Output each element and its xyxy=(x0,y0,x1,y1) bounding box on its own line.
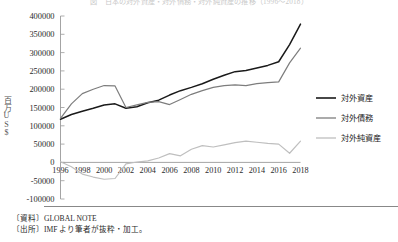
x-tick-label: 2016 xyxy=(270,166,286,175)
y-tick-label: 200000 xyxy=(29,85,54,94)
x-tick-label: 2012 xyxy=(227,166,243,175)
y-tick-label: 100000 xyxy=(29,122,54,131)
x-axis-tick-labels: 1996199820002002200420062008201020122014… xyxy=(52,166,308,175)
footer-source-material: 〔資料〕GLOBAL NOTE xyxy=(12,213,147,224)
data-series-lines xyxy=(61,24,301,179)
y-tick-label: -50000 xyxy=(31,177,55,186)
x-tick-label: 2010 xyxy=(205,166,221,175)
x-tick-label: 2000 xyxy=(96,166,112,175)
y-tick-label: -100000 xyxy=(27,195,55,204)
x-tick-label: 2004 xyxy=(140,166,156,175)
y-tick-label: 150000 xyxy=(29,104,54,113)
legend-label: 対外債務 xyxy=(341,113,374,123)
y-axis-tick-labels: 4000003500003000002500002000001500001000… xyxy=(27,12,55,204)
y-tick-label: 250000 xyxy=(29,67,54,76)
chart-plot: 4000003500003000002500002000001500001000… xyxy=(0,0,398,242)
series-line xyxy=(61,24,301,119)
legend-label: 対外純資産 xyxy=(341,133,381,143)
x-tick-label: 2006 xyxy=(161,166,177,175)
footer-notes: 〔資料〕GLOBAL NOTE 〔出所〕IMF より筆者が抜粋・加工。 xyxy=(12,213,147,235)
footer-source-origin: 〔出所〕IMF より筆者が抜粋・加工。 xyxy=(12,224,147,235)
y-tick-label: 400000 xyxy=(29,12,54,21)
y-tick-label: 50000 xyxy=(34,140,55,149)
legend-label: 対外資産 xyxy=(341,93,373,103)
figure-container: 図 日本の対外資産・対外債務・対外純資産の推移（1996〜2018） 百万US$… xyxy=(0,0,398,242)
x-tick-label: 2018 xyxy=(292,166,308,175)
x-tick-label: 2014 xyxy=(249,166,265,175)
y-tick-label: 300000 xyxy=(29,49,54,58)
chart-legend: 対外資産対外債務対外純資産 xyxy=(316,93,381,143)
y-tick-label: 350000 xyxy=(29,30,54,39)
x-tick-label: 2008 xyxy=(183,166,199,175)
